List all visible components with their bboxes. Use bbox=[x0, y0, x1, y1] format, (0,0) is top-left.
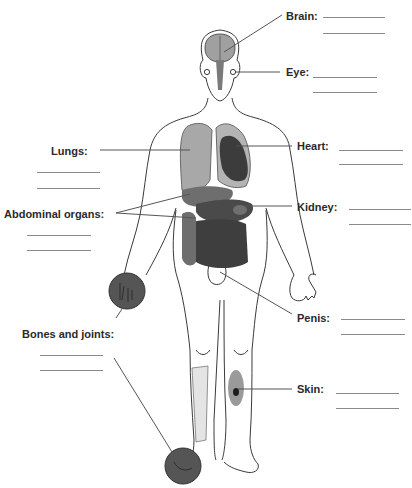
brain-blank-1[interactable] bbox=[323, 17, 385, 18]
skin-label: Skin: bbox=[297, 383, 324, 395]
joint-foot-circle bbox=[165, 448, 201, 484]
abdominal-blank-1[interactable] bbox=[27, 235, 91, 236]
bones-blank-1[interactable] bbox=[40, 355, 103, 356]
kidney-label: Kidney: bbox=[297, 201, 337, 213]
bones-blank-2[interactable] bbox=[40, 370, 103, 371]
skin-blank-1[interactable] bbox=[336, 393, 399, 394]
heart-blank-2[interactable] bbox=[339, 164, 403, 165]
brain-organ bbox=[205, 34, 235, 90]
abdominal-organs-label: Abdominal organs: bbox=[4, 208, 104, 220]
lungs-label: Lungs: bbox=[51, 145, 88, 157]
penis-label: Penis: bbox=[297, 312, 330, 324]
eye-blank-2[interactable] bbox=[313, 92, 377, 93]
kidney-blank-2[interactable] bbox=[349, 224, 411, 225]
eye-blank-1[interactable] bbox=[313, 77, 377, 78]
eye-label: Eye: bbox=[286, 66, 309, 78]
bone-shin bbox=[192, 366, 208, 442]
heart-blank-1[interactable] bbox=[339, 150, 403, 151]
joint-hand-circle bbox=[109, 273, 145, 309]
penis-blank-2[interactable] bbox=[341, 334, 405, 335]
kidney-blank-1[interactable] bbox=[349, 209, 411, 210]
lungs-blank-1[interactable] bbox=[37, 172, 100, 173]
brain-label: Brain: bbox=[286, 10, 318, 22]
abdominal-organs bbox=[182, 186, 253, 268]
penis-blank-1[interactable] bbox=[341, 319, 405, 320]
skin-patch bbox=[228, 370, 244, 406]
heart-label: Heart: bbox=[297, 140, 329, 152]
body-figure bbox=[0, 0, 412, 488]
skin-blank-2[interactable] bbox=[336, 408, 399, 409]
lungs-blank-2[interactable] bbox=[37, 188, 100, 189]
abdominal-blank-2[interactable] bbox=[27, 250, 91, 251]
brain-blank-2[interactable] bbox=[323, 33, 385, 34]
bones-joints-label: Bones and joints: bbox=[22, 328, 114, 340]
